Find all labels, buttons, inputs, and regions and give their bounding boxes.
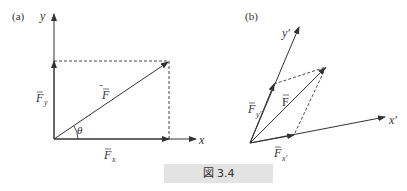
svg-text:F: F bbox=[35, 91, 44, 105]
panel-b-label: (b) bbox=[245, 10, 258, 23]
vector-f-label-b: F bbox=[282, 95, 289, 109]
x-prime-axis-label: x′ bbox=[388, 113, 397, 127]
svg-text:y′: y′ bbox=[255, 110, 262, 119]
fx-label: F x bbox=[103, 148, 116, 164]
svg-text:F: F bbox=[247, 102, 256, 116]
figure-canvas: (a) y x θ F ⃗ F y F x bbox=[0, 0, 407, 191]
panel-b: (b) y′ x′ F F y′ F x′ bbox=[245, 10, 397, 163]
fy-prime-label: F y′ bbox=[247, 102, 262, 119]
panel-a-label: (a) bbox=[12, 10, 25, 23]
vector-f-label-a: F ⃗ bbox=[99, 84, 110, 102]
fy-label: F y bbox=[35, 91, 48, 107]
svg-text:⃗: ⃗ bbox=[99, 84, 103, 87]
svg-text:x′: x′ bbox=[281, 154, 288, 163]
svg-text:y: y bbox=[43, 98, 48, 107]
x-axis-label: x bbox=[198, 133, 205, 147]
y-prime-axis-label: y′ bbox=[281, 26, 290, 40]
y-axis-label: y bbox=[39, 9, 46, 23]
svg-text:F: F bbox=[101, 88, 110, 102]
figure-caption: 図 3.4 bbox=[164, 164, 273, 183]
svg-text:F: F bbox=[273, 146, 282, 160]
force-vector-a bbox=[54, 62, 168, 139]
svg-text:x: x bbox=[111, 155, 116, 164]
svg-text:F: F bbox=[103, 148, 112, 162]
theta-label: θ bbox=[77, 124, 83, 136]
fx-prime-label: F x′ bbox=[273, 146, 288, 163]
dashed-projection-lower bbox=[294, 67, 326, 135]
panel-a: (a) y x θ F ⃗ F y F x bbox=[12, 9, 205, 164]
svg-text:F: F bbox=[282, 95, 289, 109]
